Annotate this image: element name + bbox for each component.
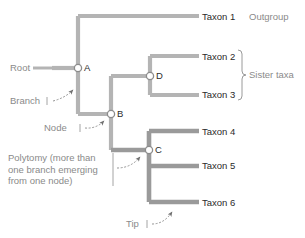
taxon-label-3: Taxon 3 — [202, 90, 235, 100]
tip-label: Tip — [126, 219, 139, 229]
node-letter-d: D — [156, 71, 163, 81]
sister-taxa-bracket — [238, 50, 246, 100]
taxon-label-6: Taxon 6 — [202, 198, 235, 208]
node-letter-b: B — [117, 109, 123, 119]
taxon-label-1: Taxon 1 — [202, 12, 235, 22]
node-marker-d — [146, 72, 153, 79]
node-marker-b — [107, 110, 114, 117]
arrow-branch — [53, 90, 73, 101]
tree-graphics — [0, 0, 305, 238]
node-letter-c: C — [155, 145, 162, 155]
polytomy-label-line-3: from one node) — [8, 175, 98, 187]
arrow-node — [85, 121, 104, 128]
arrow-tip — [152, 212, 172, 224]
node-letter-a: A — [84, 63, 90, 73]
polytomy-label: Polytomy (more than one branch emerging … — [8, 152, 98, 187]
sister-taxa-label: Sister taxa — [249, 70, 294, 80]
node-label: Node — [44, 123, 67, 133]
taxon-label-2: Taxon 2 — [202, 52, 235, 62]
polytomy-label-line-2: one branch emerging — [8, 164, 98, 176]
taxon-label-5: Taxon 5 — [202, 161, 235, 171]
arrow-polytomy — [117, 157, 140, 168]
polytomy-label-line-1: Polytomy (more than — [8, 152, 98, 164]
taxon-label-4: Taxon 4 — [202, 127, 235, 137]
branch-label: Branch — [10, 96, 40, 106]
branch-group-dark — [111, 131, 199, 202]
root-label: Root — [10, 63, 30, 73]
node-marker-c — [145, 146, 152, 153]
phylogenetic-tree-figure: Taxon 1 Taxon 2 Taxon 3 Taxon 4 Taxon 5 … — [0, 0, 305, 238]
outgroup-label: Outgroup — [249, 12, 289, 22]
node-marker-a — [74, 64, 81, 71]
